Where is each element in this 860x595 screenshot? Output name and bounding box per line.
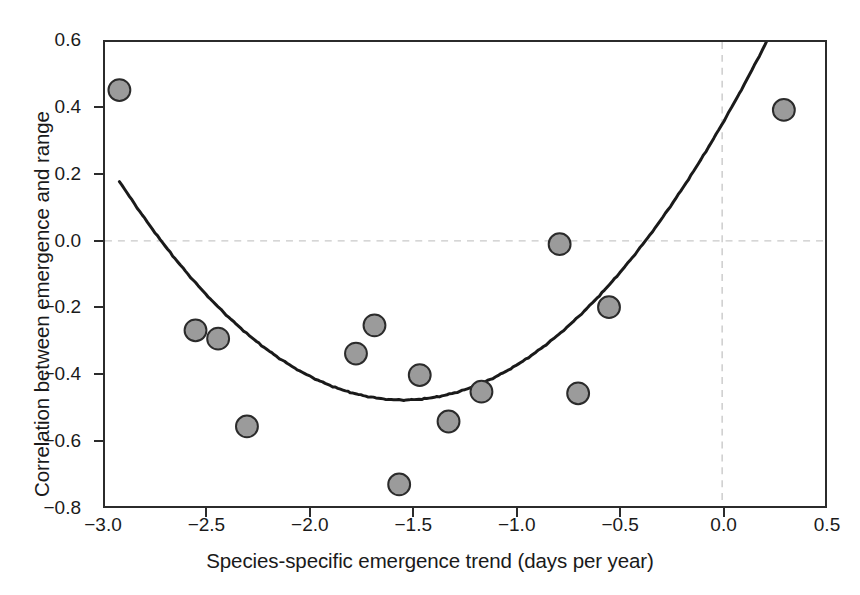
y-tick-mark	[94, 440, 103, 442]
scatter-plot-figure: Correlation between emergence and range …	[0, 0, 860, 595]
x-tick-label: −2.0	[291, 514, 329, 536]
x-tick-label: −1.0	[498, 514, 536, 536]
data-point	[207, 328, 229, 350]
x-tick-label: 0.0	[710, 514, 736, 536]
data-point	[108, 79, 130, 101]
x-tick-label: −2.5	[188, 514, 226, 536]
y-tick-mark	[94, 240, 103, 242]
x-tick-mark	[516, 508, 518, 517]
y-tick-mark	[94, 173, 103, 175]
y-tick-label: 0.2	[55, 163, 81, 185]
x-axis-title: Species-specific emergence trend (days p…	[0, 549, 860, 573]
data-point	[549, 233, 571, 255]
data-point	[345, 343, 367, 365]
data-point	[236, 416, 258, 438]
x-tick-label: 0.5	[814, 514, 840, 536]
plot-frame	[103, 40, 827, 508]
y-tick-label: 0.0	[55, 230, 81, 252]
x-tick-label: −1.5	[395, 514, 433, 536]
x-tick-mark	[309, 508, 311, 517]
data-point	[388, 474, 410, 496]
data-point	[773, 99, 795, 121]
data-point	[471, 381, 493, 403]
data-point	[438, 411, 460, 433]
x-tick-label: −3.0	[84, 514, 122, 536]
y-tick-mark	[94, 306, 103, 308]
y-tick-label: 0.4	[55, 96, 81, 118]
y-tick-label: −0.6	[43, 430, 81, 452]
y-tick-label: −0.8	[43, 497, 81, 519]
x-tick-mark	[723, 508, 725, 517]
y-tick-label: −0.4	[43, 363, 81, 385]
y-tick-mark	[94, 106, 103, 108]
y-tick-label: 0.6	[55, 29, 81, 51]
y-tick-mark	[94, 373, 103, 375]
x-tick-mark	[619, 508, 621, 517]
data-point	[364, 314, 386, 336]
x-tick-mark	[205, 508, 207, 517]
data-point	[567, 382, 589, 404]
plot-area	[105, 42, 825, 506]
y-axis-ticks: 0.60.40.20.0−0.2−0.4−0.6−0.8	[0, 0, 95, 595]
data-point	[185, 319, 207, 341]
plot-canvas	[105, 42, 825, 506]
x-tick-label: −0.5	[601, 514, 639, 536]
y-tick-label: −0.2	[43, 296, 81, 318]
x-tick-mark	[412, 508, 414, 517]
data-point	[598, 296, 620, 318]
data-point	[409, 364, 431, 386]
